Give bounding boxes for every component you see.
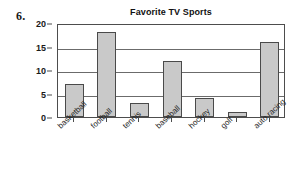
bar [97, 32, 116, 117]
bars-layer [58, 25, 284, 117]
x-axis: basketballfootballtennisbaseballhockeygo… [57, 118, 285, 172]
y-tick-mark [47, 94, 52, 95]
x-tick-label: golf [219, 115, 235, 130]
y-tick-mark [47, 47, 52, 48]
y-tick-mark [47, 24, 52, 25]
y-axis: 05101520 [0, 24, 52, 118]
y-tick-label: 0 [41, 113, 46, 123]
y-tick-label: 15 [36, 43, 46, 53]
y-tick-mark [47, 71, 52, 72]
problem-number: 6. [16, 9, 25, 24]
x-tick-mark [236, 118, 237, 122]
y-tick-label: 5 [41, 90, 46, 100]
chart-title: Favorite TV Sports [57, 7, 285, 17]
plot-area [57, 24, 285, 118]
y-tick-label: 10 [36, 66, 46, 76]
y-tick-mark [47, 118, 52, 119]
y-tick-label: 20 [36, 19, 46, 29]
